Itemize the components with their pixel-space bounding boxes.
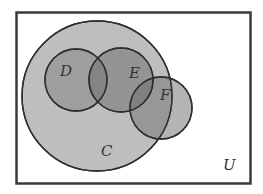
label-c: C (101, 142, 113, 160)
venn-diagram: D E F C U (0, 0, 263, 194)
label-u: U (223, 156, 237, 174)
label-f: F (159, 86, 171, 104)
label-d: D (59, 62, 72, 80)
label-e: E (128, 64, 140, 82)
